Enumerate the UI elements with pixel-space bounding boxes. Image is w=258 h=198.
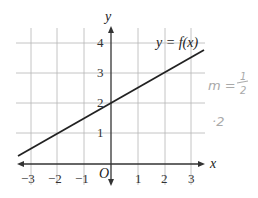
x-tick-neg1: −1 (75, 171, 89, 186)
slope-numerator: 1 (240, 71, 246, 82)
x-axis-label: x (209, 156, 217, 171)
y-tick-2: 2 (97, 95, 104, 110)
y-axis-label: y (103, 9, 112, 24)
origin-label: O (99, 166, 109, 181)
slope-note: m = (208, 78, 236, 93)
arrow-up-icon (108, 26, 114, 33)
y-tick-1: 1 (97, 125, 104, 140)
y-tick-3: 3 (97, 65, 104, 80)
arrow-left-icon (17, 161, 24, 167)
handwritten-notes: m = 1 2 ·2 (208, 71, 248, 129)
coordinate-plane: y x O y = f(x) 4 3 2 1 −3 −2 −1 1 2 3 m … (0, 0, 258, 198)
slope-denominator: 2 (240, 85, 246, 96)
x-tick-2: 2 (161, 171, 168, 186)
x-tick-1: 1 (135, 171, 142, 186)
intercept-note: ·2 (212, 114, 224, 129)
x-tick-neg3: −3 (21, 171, 35, 186)
y-tick-4: 4 (97, 35, 104, 50)
y-axis (108, 26, 114, 186)
arrow-right-icon (198, 161, 205, 167)
function-label: y = f(x) (154, 35, 198, 51)
x-tick-neg2: −2 (48, 171, 62, 186)
x-tick-3: 3 (188, 171, 195, 186)
